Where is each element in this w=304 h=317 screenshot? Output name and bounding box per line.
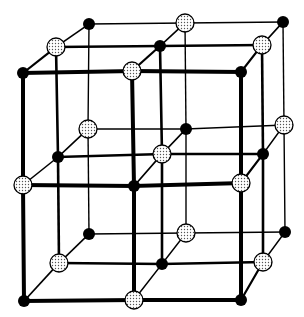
dotted-white-atom (232, 174, 250, 192)
front-vertical-bond (132, 71, 134, 186)
dotted-white-atom (153, 145, 171, 163)
back-horizontal-bond (185, 22, 283, 23)
filled-black-atom (279, 226, 291, 238)
filled-black-atom (83, 18, 95, 30)
dotted-white-atom (176, 14, 194, 32)
dotted-white-atom (253, 36, 271, 54)
crystal-lattice-diagram (0, 0, 304, 317)
middle-horizontal-bond (58, 154, 162, 157)
front-vertical-bond (23, 185, 24, 301)
front-horizontal-bond (132, 71, 241, 72)
back-horizontal-bond (89, 233, 186, 234)
back-vertical-bond (88, 129, 89, 234)
dotted-white-atom (79, 120, 97, 138)
dotted-white-atom (47, 38, 65, 56)
dotted-white-atom (50, 254, 68, 272)
middle-horizontal-bond (162, 262, 263, 264)
filled-black-atom (17, 67, 29, 79)
dotted-white-atom (125, 291, 143, 309)
middle-vertical-bond (56, 47, 58, 157)
middle-vertical-bond (160, 46, 162, 154)
back-horizontal-bond (89, 23, 185, 24)
filled-black-atom (235, 66, 247, 78)
dotted-white-atom (177, 224, 195, 242)
middle-horizontal-bond (56, 46, 160, 47)
middle-horizontal-bond (59, 263, 162, 264)
dotted-white-atom (254, 253, 272, 271)
filled-black-atom (154, 40, 166, 52)
back-vertical-bond (284, 125, 285, 232)
dotted-white-atom (275, 116, 293, 134)
filled-black-atom (18, 295, 30, 307)
filled-black-atom (277, 16, 289, 28)
filled-black-atom (156, 258, 168, 270)
filled-black-atom (128, 180, 140, 192)
front-horizontal-bond (23, 71, 132, 73)
middle-vertical-bond (58, 157, 59, 263)
filled-black-atom (235, 294, 247, 306)
front-horizontal-bond (23, 185, 134, 186)
back-horizontal-bond (186, 232, 285, 233)
dotted-white-atom (14, 176, 32, 194)
front-horizontal-bond (24, 300, 134, 301)
filled-black-atom (180, 123, 192, 135)
back-vertical-bond (283, 22, 284, 125)
back-vertical-bond (185, 23, 186, 129)
front-horizontal-bond (134, 183, 241, 186)
dotted-white-atom (123, 62, 141, 80)
filled-black-atom (83, 228, 95, 240)
filled-black-atom (52, 151, 64, 163)
middle-horizontal-bond (160, 45, 262, 46)
back-vertical-bond (88, 24, 89, 129)
back-horizontal-bond (186, 125, 284, 129)
middle-vertical-bond (262, 45, 263, 154)
filled-black-atom (257, 148, 269, 160)
